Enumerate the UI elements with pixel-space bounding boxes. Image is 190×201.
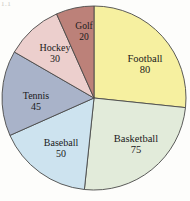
pie-label-name: Golf: [75, 21, 92, 32]
pie-label-value: 75: [114, 144, 158, 155]
pie-label-name: Hockey: [39, 42, 70, 53]
pie-label-football: Football80: [127, 53, 162, 75]
pie-label-value: 20: [75, 32, 92, 43]
pie-label-value: 80: [127, 64, 162, 75]
pie-label-baseball: Baseball50: [44, 137, 78, 159]
pie-label-value: 30: [39, 53, 70, 64]
pie-label-hockey: Hockey30: [39, 42, 70, 64]
pie-chart-figure: 1.1 Football80Basketball75Baseball50Tenn…: [0, 0, 190, 201]
pie-label-name: Football: [127, 53, 162, 64]
pie-label-name: Tennis: [23, 90, 50, 101]
pie-label-basketball: Basketball75: [114, 133, 158, 155]
pie-label-name: Basketball: [114, 133, 158, 144]
pie-label-tennis: Tennis45: [23, 90, 50, 112]
pie-label-golf: Golf20: [75, 21, 92, 43]
pie-label-value: 45: [23, 101, 50, 112]
pie-label-name: Baseball: [44, 137, 78, 148]
pie-label-value: 50: [44, 148, 78, 159]
